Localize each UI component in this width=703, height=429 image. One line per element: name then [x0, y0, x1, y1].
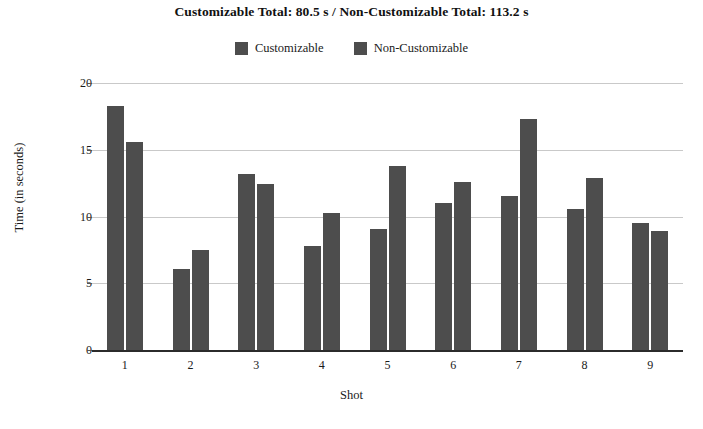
bar — [501, 196, 518, 350]
legend-swatch-icon — [354, 42, 367, 55]
legend-item-non-customizable: Non-Customizable — [354, 41, 468, 56]
x-axis-tick-label: 7 — [499, 358, 539, 373]
x-axis-tick-label: 6 — [433, 358, 473, 373]
y-axis-title: Time (in seconds) — [12, 108, 27, 268]
legend-label: Non-Customizable — [374, 41, 468, 56]
x-axis-tick-label: 5 — [368, 358, 408, 373]
chart-title: Customizable Total: 80.5 s / Non-Customi… — [0, 4, 703, 20]
bars-layer — [92, 83, 683, 350]
bar — [520, 119, 537, 350]
x-axis-line — [92, 350, 683, 352]
bar — [567, 209, 584, 351]
legend-swatch-icon — [235, 42, 248, 55]
bar — [173, 269, 190, 350]
x-axis-tick-label: 8 — [565, 358, 605, 373]
x-axis-tick-label: 1 — [105, 358, 145, 373]
bar-chart: Customizable Total: 80.5 s / Non-Customi… — [0, 0, 703, 429]
bar — [435, 203, 452, 350]
bar — [238, 174, 255, 350]
bar — [304, 246, 321, 350]
x-axis-tick-label: 3 — [236, 358, 276, 373]
bar — [107, 106, 124, 350]
bar — [632, 223, 649, 350]
bar — [651, 231, 668, 350]
x-axis-title: Shot — [0, 388, 703, 403]
bar — [454, 182, 471, 350]
chart-legend: Customizable Non-Customizable — [0, 41, 703, 56]
bar — [257, 184, 274, 350]
y-axis: 05101520 — [46, 83, 92, 350]
legend-label: Customizable — [255, 41, 324, 56]
x-axis-tick-label: 4 — [302, 358, 342, 373]
plot-area — [92, 83, 683, 350]
x-axis-tick-label: 9 — [630, 358, 670, 373]
bar — [126, 142, 143, 350]
bar — [370, 229, 387, 350]
bar — [389, 166, 406, 350]
bar — [586, 178, 603, 350]
legend-item-customizable: Customizable — [235, 41, 324, 56]
x-axis-tick-label: 2 — [171, 358, 211, 373]
bar — [323, 213, 340, 351]
bar — [192, 250, 209, 350]
